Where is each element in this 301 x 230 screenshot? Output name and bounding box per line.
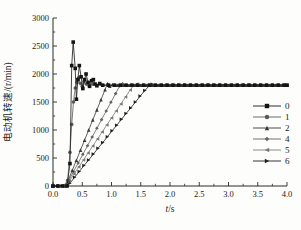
x-tick-label: 3.0 <box>223 189 234 199</box>
series-marker-0 <box>51 184 55 188</box>
series-marker-0 <box>107 83 111 87</box>
series-marker-0 <box>56 184 60 188</box>
y-tick-label: 2000 <box>32 69 49 79</box>
series-marker-0 <box>171 83 175 87</box>
x-tick-label: 0.0 <box>48 189 59 199</box>
series-marker-4 <box>81 153 85 157</box>
series-marker-0 <box>71 40 75 44</box>
series-marker-0 <box>101 83 105 87</box>
x-axis-label-unit: /s <box>168 204 175 214</box>
series-marker-0 <box>65 184 69 188</box>
series-marker-4 <box>109 100 113 104</box>
series-layer <box>51 40 289 188</box>
x-tick-label: 2.0 <box>165 189 176 199</box>
y-tick-label: 500 <box>36 153 49 163</box>
series-marker-0 <box>271 83 275 87</box>
series-marker-2 <box>91 118 95 122</box>
series-marker-2 <box>79 148 83 152</box>
series-marker-0 <box>76 78 80 82</box>
legend-entry-5: 5 <box>253 145 290 155</box>
series-marker-2 <box>83 138 87 142</box>
series-line-6 <box>53 84 287 186</box>
series-marker-0 <box>75 97 79 101</box>
legend-label-2: 2 <box>285 123 290 133</box>
legend-marker-1 <box>265 115 269 119</box>
legend-entry-4: 4 <box>253 134 290 144</box>
y-tick-label: 2500 <box>32 41 49 51</box>
series-marker-0 <box>86 81 90 85</box>
series-marker-0 <box>276 83 280 87</box>
series-marker-0 <box>148 83 152 87</box>
y-axis-label: 电动机转速/(r/min) <box>2 62 14 142</box>
series-marker-0 <box>165 83 169 87</box>
legend-marker-6 <box>265 159 269 163</box>
legend-label-0: 0 <box>285 101 290 111</box>
legend-entry-2: 2 <box>253 123 290 133</box>
series-marker-0 <box>285 83 289 87</box>
series-line-2 <box>53 84 287 186</box>
series-marker-0 <box>212 83 216 87</box>
series-marker-2 <box>87 128 91 132</box>
series-line-0 <box>53 42 287 186</box>
series-marker-0 <box>136 83 140 87</box>
x-tick-label: 0.5 <box>77 189 88 199</box>
series-2 <box>51 82 289 188</box>
series-marker-0 <box>130 83 134 87</box>
legend-entry-1: 1 <box>253 112 290 122</box>
series-marker-0 <box>113 83 117 87</box>
series-marker-0 <box>88 85 92 89</box>
series-marker-0 <box>81 87 85 91</box>
x-axis-label: t/s <box>166 204 175 214</box>
series-marker-0 <box>224 83 228 87</box>
series-marker-0 <box>79 75 83 79</box>
series-marker-0 <box>206 83 210 87</box>
series-marker-0 <box>118 83 122 87</box>
x-tick-label: 4.0 <box>282 189 293 199</box>
series-line-5 <box>53 84 287 186</box>
series-marker-0 <box>265 83 269 87</box>
legend-label-4: 4 <box>285 134 290 144</box>
legend-layer: 012456 <box>253 101 290 166</box>
series-marker-4 <box>114 92 118 96</box>
x-tick-label: 1.0 <box>106 189 117 199</box>
series-marker-0 <box>253 83 257 87</box>
series-marker-0 <box>142 83 146 87</box>
series-marker-2 <box>95 108 99 112</box>
legend-entry-6: 6 <box>253 156 290 166</box>
series-marker-0 <box>70 64 74 68</box>
series-marker-0 <box>195 83 199 87</box>
y-tick-label: 1500 <box>32 97 49 107</box>
series-marker-0 <box>159 83 163 87</box>
series-marker-0 <box>124 83 128 87</box>
y-tick-label: 1000 <box>32 125 49 135</box>
y-tick-label: 0 <box>45 181 49 191</box>
motor-speed-chart: 0.00.51.01.52.02.53.03.54.00500100015002… <box>0 0 301 230</box>
series-marker-4 <box>90 135 94 139</box>
series-marker-0 <box>61 184 65 188</box>
legend-marker-4 <box>265 137 269 141</box>
legend-marker-0 <box>265 104 269 108</box>
series-marker-0 <box>189 83 193 87</box>
series-0 <box>51 40 289 188</box>
series-marker-0 <box>218 83 222 87</box>
series-marker-0 <box>235 83 239 87</box>
series-marker-0 <box>241 83 245 87</box>
chart-figure: 0.00.51.01.52.02.53.03.54.00500100015002… <box>0 0 301 230</box>
series-marker-0 <box>259 83 263 87</box>
legend-entry-0: 0 <box>253 101 290 111</box>
series-1 <box>51 76 289 188</box>
series-marker-0 <box>83 78 87 82</box>
legend-marker-5 <box>265 148 269 152</box>
series-marker-0 <box>154 83 158 87</box>
series-marker-2 <box>75 158 79 162</box>
series-marker-2 <box>99 98 103 102</box>
series-marker-0 <box>84 72 88 76</box>
series-marker-0 <box>177 83 181 87</box>
series-marker-1 <box>73 86 77 90</box>
x-tick-label: 1.5 <box>135 189 146 199</box>
series-line-4 <box>53 84 287 186</box>
series-marker-4 <box>95 127 99 131</box>
legend-label-6: 6 <box>285 156 290 166</box>
series-marker-4 <box>100 118 104 122</box>
series-marker-4 <box>104 109 108 113</box>
